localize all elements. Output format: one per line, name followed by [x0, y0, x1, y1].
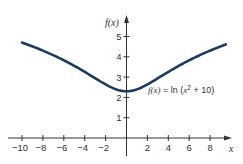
x-tick-label: 4	[166, 142, 171, 153]
x-tick-label: −10	[12, 142, 28, 153]
annotation-equals: = ln (	[161, 85, 184, 95]
x-tick-label: −8	[35, 142, 46, 153]
annotation-suffix: + 10)	[191, 85, 214, 95]
y-ticks: 12345	[116, 31, 129, 123]
x-axis-label: x	[228, 143, 234, 154]
x-tick-label: −4	[77, 142, 88, 153]
y-tick-label: 1	[116, 112, 121, 123]
x-tick-label: −2	[98, 142, 109, 153]
annotation-prefix: f(x)	[148, 85, 161, 95]
y-axis-label: f(x)	[105, 17, 120, 29]
x-tick-label: 2	[145, 142, 150, 153]
function-plot: −10−8−6−4−22468 12345 x f(x) f(x) = ln (…	[0, 0, 243, 164]
y-tick-label: 4	[116, 51, 121, 62]
y-tick-label: 5	[116, 31, 121, 42]
x-axis-arrow-icon	[224, 136, 232, 141]
x-tick-label: 8	[207, 142, 212, 153]
series-line-f	[22, 43, 226, 92]
y-axis-arrow-icon	[124, 15, 129, 23]
y-tick-label: 3	[116, 72, 121, 83]
x-tick-label: −6	[56, 142, 67, 153]
y-tick-label: 2	[116, 92, 121, 103]
function-annotation: f(x) = ln (x2 + 10)	[148, 84, 214, 95]
x-tick-label: 6	[187, 142, 192, 153]
